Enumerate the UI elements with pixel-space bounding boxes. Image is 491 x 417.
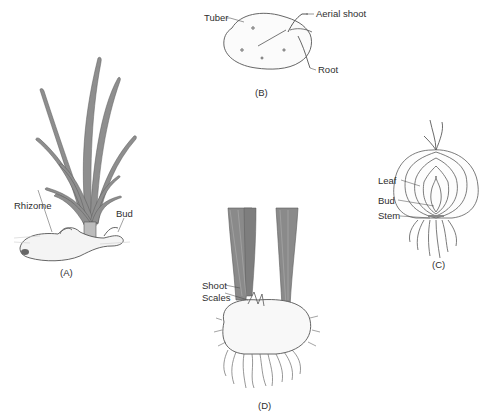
label-bud-c: Bud xyxy=(378,195,395,206)
caption-a: (A) xyxy=(60,267,73,278)
rhizome-illustration xyxy=(14,57,136,261)
onion-illustration xyxy=(394,120,479,258)
label-scales: Scales xyxy=(202,292,231,303)
label-bud-a: Bud xyxy=(116,208,133,219)
tuber-illustration xyxy=(224,13,316,70)
caption-d: (D) xyxy=(258,400,271,411)
label-root: Root xyxy=(318,64,338,75)
label-shoot: Shoot xyxy=(202,280,227,291)
caption-b: (B) xyxy=(255,87,268,98)
label-stem: Stem xyxy=(378,210,400,221)
label-tuber: Tuber xyxy=(204,12,228,23)
caption-c: (C) xyxy=(432,259,445,270)
label-rhizome: Rhizome xyxy=(14,200,52,211)
diagram-canvas xyxy=(0,0,491,417)
label-leaf: Leaf xyxy=(378,175,397,186)
label-aerial-shoot: Aerial shoot xyxy=(316,8,366,19)
